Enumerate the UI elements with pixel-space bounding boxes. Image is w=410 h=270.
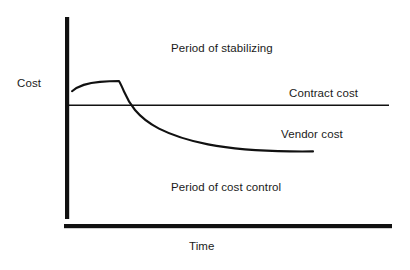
contract-cost-label: Contract cost: [289, 87, 358, 100]
vendor-cost-label: Vendor cost: [281, 128, 343, 141]
vendor-cost-curve: [72, 81, 313, 151]
cost-time-diagram: Cost Time Period of stabilizing Contract…: [0, 0, 410, 270]
y-axis-label: Cost: [17, 77, 41, 90]
chart-canvas: [0, 0, 410, 270]
x-axis-line: [64, 224, 392, 228]
period-of-stabilizing-label: Period of stabilizing: [171, 42, 273, 55]
y-axis-line: [65, 17, 69, 219]
period-of-cost-control-label: Period of cost control: [171, 181, 281, 194]
x-axis-label: Time: [189, 240, 215, 253]
